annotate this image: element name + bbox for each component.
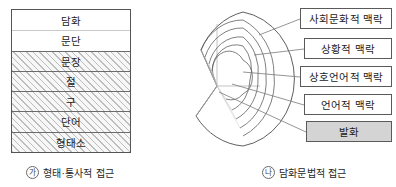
caption-marker-na: 나 [262, 166, 275, 179]
label-box-utterance: 발화 [306, 121, 392, 142]
stack-row-label: 구 [66, 94, 76, 109]
label-text: 발화 [339, 124, 359, 139]
stack-row-label: 담화 [61, 13, 82, 28]
label-box-linguistic-context: 언어적 맥락 [304, 94, 392, 115]
cut-face-arc-lower-1 [196, 86, 217, 116]
stack-row: 단어 [12, 111, 130, 131]
shell-rim-5-core [212, 51, 252, 100]
stack-row: 담화 [12, 10, 130, 30]
nested-sphere-diagram [188, 4, 298, 154]
caption-right: 나 담화문법적 접근 [262, 165, 346, 180]
stack-row: 문단 [12, 30, 130, 50]
label-text: 언어적 맥락 [321, 97, 375, 112]
sphere-outer-shell [196, 12, 294, 146]
shell-rim-3 [209, 37, 258, 119]
stack-row: 문장 [12, 51, 130, 71]
stack-row-label: 단어 [61, 114, 82, 129]
cut-face-arc-lower-5 [217, 86, 226, 99]
stack-row: 구 [12, 91, 130, 111]
caption-left: 가 형태·통사적 접근 [26, 165, 114, 180]
morpho-syntactic-stack-diagram: 담화 문단 문장 절 구 단어 형태소 [11, 9, 131, 153]
caption-left-text: 형태·통사적 접근 [43, 165, 114, 180]
label-box-sociocultural-context: 사회문화적 맥락 [300, 8, 392, 29]
caption-marker-ga: 가 [26, 166, 39, 179]
label-text: 상황적 맥락 [321, 41, 375, 56]
stack-row: 형태소 [12, 132, 130, 152]
caption-right-text: 담화문법적 접근 [279, 165, 346, 180]
label-box-situational-context: 상황적 맥락 [304, 38, 392, 59]
label-box-interlinguistic-context: 상호언어적 맥락 [300, 66, 392, 87]
label-text: 상호언어적 맥락 [309, 69, 384, 84]
label-text: 사회문화적 맥락 [309, 11, 384, 26]
stack-row-label: 형태소 [56, 135, 87, 150]
stack-row-label: 절 [66, 74, 76, 89]
stack-row-label: 문단 [61, 33, 82, 48]
stack-row-label: 문장 [61, 54, 82, 69]
shell-rim-1 [201, 20, 274, 136]
stack-row: 절 [12, 71, 130, 91]
